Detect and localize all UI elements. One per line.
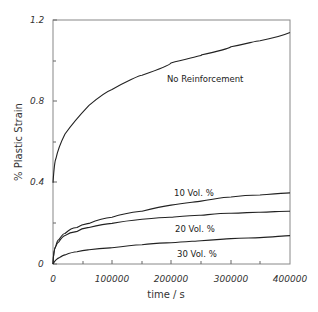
y-tick-label-1.2: 1.2	[30, 15, 45, 25]
label-30-vol-percent: 30 Vol. %	[177, 249, 217, 259]
y-tick-label-0: 0	[38, 259, 44, 269]
x-axis-ticks	[83, 260, 260, 264]
x-tick-label-100000: 100000	[95, 274, 130, 284]
x-tick-label-200000: 200000	[154, 274, 189, 284]
creep-strain-chart: 0 0.4 0.8 1.2 0 100000 200000 300000 400…	[0, 0, 318, 312]
label-10-vol-percent: 10 Vol. %	[174, 188, 214, 198]
x-tick-label-300000: 300000	[214, 274, 249, 284]
curve-no-reinforcement	[53, 33, 290, 183]
label-20-vol-percent: 20 Vol. %	[175, 224, 215, 234]
y-tick-label-0.8: 0.8	[30, 96, 45, 106]
y-axis-ticks	[53, 20, 57, 264]
y-axis-title: % Plastic Strain	[13, 103, 24, 181]
x-tick-label-0: 0	[50, 274, 56, 284]
curve-10-vol-percent	[53, 193, 290, 264]
label-no-reinforcement: No Reinforcement	[167, 74, 244, 84]
curve-30-vol-percent	[53, 236, 290, 264]
x-axis-title: time / s	[147, 289, 185, 300]
y-tick-label-0.4: 0.4	[30, 177, 45, 187]
x-tick-label-400000: 400000	[273, 274, 308, 284]
